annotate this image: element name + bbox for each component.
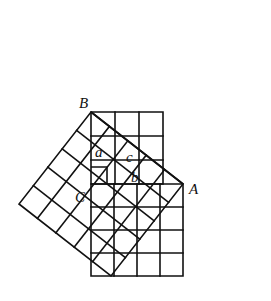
vertex-label-a: A: [188, 181, 199, 197]
pythagorean-diagram: B C A a c b: [0, 0, 271, 301]
side-label-b: b: [131, 169, 139, 185]
side-label-a: a: [95, 144, 103, 160]
square-on-side-b: [91, 184, 183, 276]
side-label-c: c: [126, 149, 133, 165]
vertex-label-c: C: [75, 189, 86, 205]
diagram-canvas: B C A a c b: [0, 0, 271, 301]
vertex-label-b: B: [79, 95, 88, 111]
